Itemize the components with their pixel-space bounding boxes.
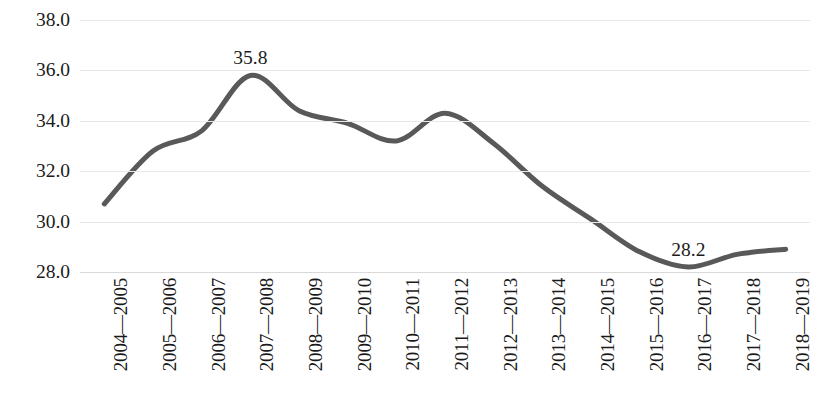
y-tick-label: 34.0 — [36, 111, 70, 131]
y-tick-label: 32.0 — [36, 161, 70, 181]
x-tick-label: 2010—2011 — [403, 278, 422, 371]
series-line — [80, 20, 810, 272]
x-tick-label: 2004—2005 — [111, 278, 130, 371]
y-tick-label: 30.0 — [36, 212, 70, 232]
x-tick-label: 2012—2013 — [501, 278, 520, 371]
data-point-label: 28.2 — [669, 239, 707, 259]
gridline — [80, 222, 810, 223]
y-axis: 38.036.034.032.030.028.0 — [0, 0, 80, 412]
line-chart: 38.036.034.032.030.028.0 2004—20052005—2… — [0, 0, 818, 412]
gridline — [80, 20, 810, 21]
x-tick-label: 2008—2009 — [306, 278, 325, 371]
gridline — [80, 70, 810, 71]
gridline — [80, 171, 810, 172]
plot-area — [80, 20, 810, 272]
y-tick-label: 38.0 — [36, 10, 70, 30]
x-tick-label: 2018—2019 — [793, 278, 812, 371]
gridline — [80, 121, 810, 122]
x-tick-label: 2007—2008 — [257, 278, 276, 371]
x-tick-label: 2011—2012 — [452, 278, 471, 371]
x-tick-label: 2016—2017 — [695, 278, 714, 371]
y-tick-label: 28.0 — [36, 262, 70, 282]
x-tick-label: 2015—2016 — [647, 278, 666, 371]
x-tick-label: 2013—2014 — [549, 278, 568, 371]
x-tick-label: 2014—2015 — [598, 278, 617, 371]
x-tick-label: 2005—2006 — [160, 278, 179, 371]
x-axis: 2004—20052005—20062006—20072007—20082008… — [80, 274, 810, 412]
y-tick-label: 36.0 — [36, 61, 70, 81]
data-point-label: 35.8 — [231, 48, 269, 68]
gridline — [80, 272, 810, 273]
x-tick-label: 2009—2010 — [355, 278, 374, 371]
x-tick-label: 2006—2007 — [209, 278, 228, 371]
x-tick-label: 2017—2018 — [744, 278, 763, 371]
